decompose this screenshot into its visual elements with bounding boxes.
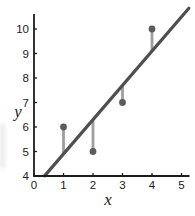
- data-point: [90, 148, 97, 155]
- x-tick-label: 1: [60, 179, 66, 191]
- y-axis-label: y: [12, 102, 22, 121]
- data-point: [149, 26, 156, 33]
- y-tick-label: 7: [23, 97, 29, 109]
- x-tick-label: 3: [119, 179, 125, 191]
- scatter-plot-with-regression-line: 01234545678910xy: [0, 0, 195, 216]
- y-tick-label: 10: [16, 23, 29, 35]
- y-tick-label: 8: [23, 72, 29, 84]
- y-tick-label: 4: [23, 170, 30, 182]
- data-point: [119, 99, 126, 106]
- x-tick-label: 2: [90, 179, 96, 191]
- x-axis-label: x: [103, 190, 112, 209]
- x-tick-label: 5: [178, 179, 184, 191]
- y-tick-label: 6: [23, 121, 29, 133]
- y-tick-label: 5: [23, 146, 29, 158]
- fitted-regression-line: [45, 8, 189, 176]
- axes: [34, 14, 190, 176]
- y-tick-label: 9: [23, 48, 29, 60]
- scatter-plot-figure: 01234545678910xy: [0, 0, 195, 216]
- data-point: [60, 124, 67, 131]
- x-tick-label: 0: [31, 179, 37, 191]
- x-tick-label: 4: [149, 179, 156, 191]
